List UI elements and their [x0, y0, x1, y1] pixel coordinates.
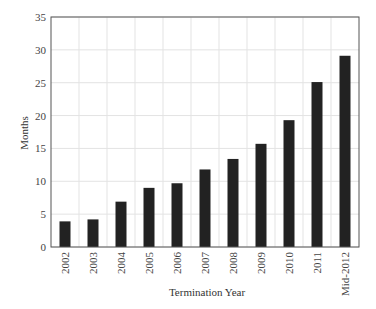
x-tick-label: 2006: [171, 252, 183, 275]
x-tick-label: 2008: [227, 252, 239, 275]
bar-2010: [284, 120, 295, 247]
bar-2009: [256, 144, 267, 247]
x-tick-label: 2009: [255, 252, 267, 275]
bar-2007: [200, 169, 211, 247]
x-tick-label: 2002: [59, 252, 71, 274]
bar-2005: [144, 188, 155, 247]
y-tick-label: 20: [35, 110, 47, 122]
x-tick-label: Mid-2012: [339, 252, 351, 296]
y-tick-label: 35: [35, 11, 47, 23]
y-tick-label: 30: [35, 44, 47, 56]
x-tick-label: 2011: [311, 252, 323, 274]
bar-2002: [60, 221, 71, 247]
bar-2003: [88, 219, 99, 247]
x-tick-label: 2007: [199, 252, 211, 275]
x-tick-label: 2003: [87, 252, 99, 275]
y-tick-label: 25: [35, 77, 47, 89]
x-tick-label: 2005: [143, 252, 155, 275]
x-axis-label: Termination Year: [169, 286, 246, 298]
bar-2008: [228, 159, 239, 247]
x-tick-label: 2010: [283, 252, 295, 275]
bars: [60, 56, 351, 247]
bar-2011: [312, 82, 323, 247]
bar-2006: [172, 183, 183, 247]
y-tick-label: 5: [41, 208, 47, 220]
y-tick-label: 15: [35, 142, 47, 154]
y-tick-label: 0: [41, 241, 47, 253]
bar-2004: [116, 202, 127, 247]
y-tick-label: 10: [35, 175, 47, 187]
y-axis-label: Months: [18, 116, 30, 150]
bar-chart: 05101520253035 2002200320042005200620072…: [0, 0, 376, 309]
y-axis-ticks: 05101520253035: [35, 11, 47, 253]
bar-Mid-2012: [340, 56, 351, 247]
x-tick-label: 2004: [115, 252, 127, 275]
